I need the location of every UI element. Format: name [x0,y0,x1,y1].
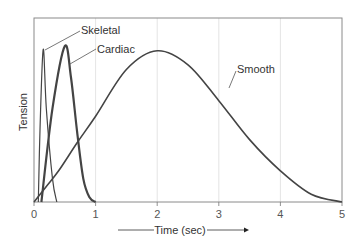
x-tick-label: 5 [339,208,345,220]
skeletal-leader-line [45,31,80,50]
cardiac-leader-line [70,49,96,64]
x-axis-ticks: 012345 [31,202,345,220]
cardiac-curve [41,45,95,202]
smooth-label: Smooth [237,63,275,75]
plot-frame [34,18,342,202]
arrow-right-icon [244,228,249,233]
x-tick-label: 1 [93,208,99,220]
x-tick-label: 3 [216,208,222,220]
curves [34,45,342,202]
x-axis-label: Time (sec) [154,224,206,236]
x-tick-label: 0 [31,208,37,220]
y-axis-label: Tension [17,93,29,131]
skeletal-label: Skeletal [81,24,120,36]
smooth-leader-line [229,71,236,88]
muscle-tension-chart: 012345 Skeletal Cardiac Smooth Tension T… [0,0,360,246]
skeletal-curve [38,49,56,202]
x-tick-label: 2 [154,208,160,220]
smooth-curve [34,51,342,202]
cardiac-label: Cardiac [97,43,135,55]
x-tick-label: 4 [277,208,283,220]
